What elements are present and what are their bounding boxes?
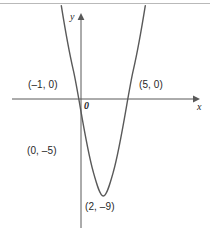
x-intercept-right-label: (5, 0) bbox=[139, 79, 163, 90]
x-axis bbox=[12, 96, 200, 103]
x-intercept-left-label: (–1, 0) bbox=[28, 79, 58, 90]
coordinate-plane bbox=[0, 0, 210, 234]
vertex-label: (2, –9) bbox=[85, 201, 115, 212]
y-intercept-label: (0, –5) bbox=[27, 145, 57, 156]
x-axis-label: x bbox=[197, 101, 201, 112]
parabola-figure: (–1, 0) (5, 0) (0, –5) (2, –9) x y 0 bbox=[0, 0, 210, 234]
parabola-curve bbox=[61, 6, 145, 196]
y-axis bbox=[78, 13, 85, 228]
origin-label: 0 bbox=[84, 100, 89, 111]
y-axis-label: y bbox=[70, 11, 74, 22]
